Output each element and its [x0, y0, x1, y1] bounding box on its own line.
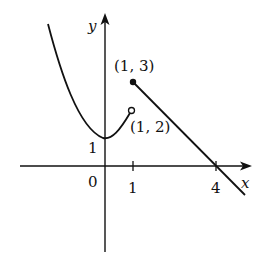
open-point-annotation: (1, 2): [130, 118, 170, 136]
x-tick-1-label: 1: [128, 179, 138, 197]
filled-point-marker: [130, 79, 136, 85]
x-axis-label: x: [241, 174, 250, 192]
parabola-curve: [48, 24, 130, 138]
filled-point-annotation: (1, 3): [114, 57, 154, 75]
y-axis-label: y: [87, 17, 97, 35]
y-tick-1-label: 1: [88, 139, 98, 157]
linear-segment: [133, 82, 245, 195]
piecewise-function-graph: y x 0 1 4 1 (1, 3) (1, 2): [0, 0, 265, 265]
open-point-marker: [129, 108, 135, 114]
origin-label: 0: [88, 173, 98, 191]
x-tick-4-label: 4: [211, 179, 221, 197]
